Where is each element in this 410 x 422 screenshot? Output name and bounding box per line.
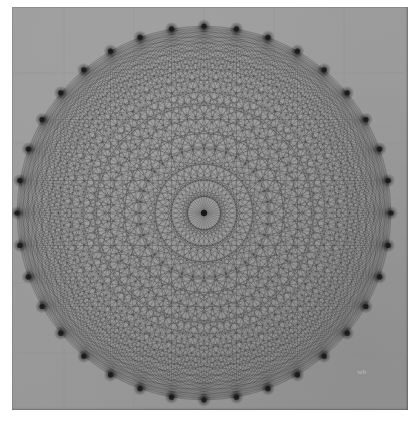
vertex-dot-35 [169, 26, 174, 31]
vertex-dot-34 [137, 35, 142, 40]
vertex-dot-30 [39, 117, 44, 122]
vertex-dot-13 [345, 331, 350, 336]
vertex-dot-3 [295, 48, 300, 53]
vertex-dot-15 [295, 372, 300, 377]
vertex-dot-20 [137, 386, 142, 391]
vertex-dot-29 [26, 146, 31, 151]
vertex-dot-18 [201, 397, 206, 402]
vertex-dot-11 [377, 274, 382, 279]
vertex-dot-16 [265, 386, 270, 391]
vertex-dot-4 [322, 67, 327, 72]
vertex-dot-2 [265, 35, 270, 40]
vertex-dot-12 [363, 304, 368, 309]
vertex-dot-7 [377, 146, 382, 151]
vertex-dot-14 [322, 354, 327, 359]
mystic-rose-figure [0, 0, 410, 422]
vertex-dot-22 [81, 354, 86, 359]
vertex-dot-10 [386, 243, 391, 248]
vertex-dot-5 [345, 90, 350, 95]
vertex-dot-21 [108, 372, 113, 377]
artwork-frame: wb [0, 0, 410, 422]
vertex-dot-1 [234, 26, 239, 31]
vertex-dot-0 [201, 23, 206, 28]
vertex-dot-23 [58, 331, 63, 336]
vertex-dot-26 [17, 243, 22, 248]
vertex-dot-9 [388, 210, 393, 215]
vertex-dot-32 [81, 67, 86, 72]
vertex-dot-28 [17, 178, 22, 183]
vertex-dot-25 [26, 274, 31, 279]
vertex-dot-19 [169, 395, 174, 400]
vertex-dot-8 [386, 178, 391, 183]
vertex-dot-24 [39, 304, 44, 309]
vertex-dot-27 [14, 210, 19, 215]
center-hub-dot [201, 210, 207, 216]
vertex-dot-33 [108, 48, 113, 53]
vertex-dot-6 [363, 117, 368, 122]
vertex-dot-17 [234, 395, 239, 400]
vertex-dot-31 [58, 90, 63, 95]
